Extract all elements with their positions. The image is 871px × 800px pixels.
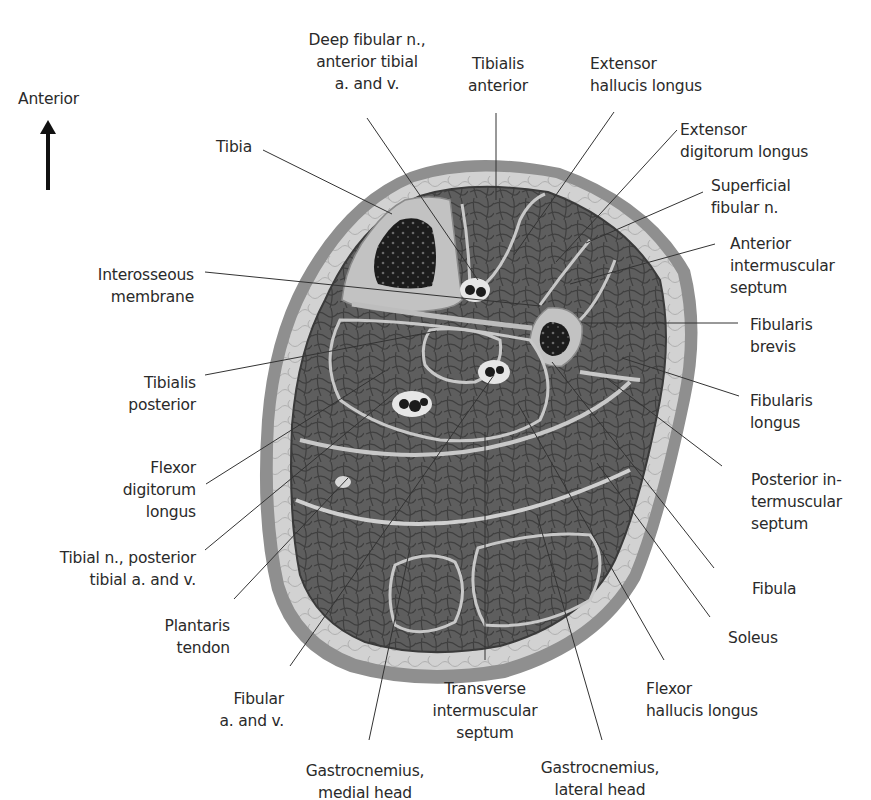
arrow-up-icon xyxy=(36,120,60,192)
leg-cross-section-figure: Anterior Deep fibular n., anterior tibia… xyxy=(0,0,871,800)
label-tibialis-anterior: Tibialis anterior xyxy=(460,53,536,97)
label-deep-fibular-nerve: Deep fibular n., anterior tibial a. and … xyxy=(267,29,467,95)
label-fibular-artery-vein: Fibular a. and v. xyxy=(180,688,284,732)
label-extensor-digitorum-longus: Extensor digitorum longus xyxy=(680,119,808,163)
label-fibula: Fibula xyxy=(752,578,796,600)
label-gastrocnemius-medial-head: Gastrocnemius, medial head xyxy=(294,760,436,800)
label-interosseous-membrane: Interosseous membrane xyxy=(60,264,194,308)
label-tibia: Tibia xyxy=(180,136,252,158)
label-transverse-intermuscular-septum: Transverse intermuscular septum xyxy=(420,678,550,744)
label-fibularis-brevis: Fibularis brevis xyxy=(750,314,813,358)
gastrocnemius-medial-head xyxy=(390,556,463,632)
label-superficial-fibular-nerve: Superficial fibular n. xyxy=(711,175,791,219)
label-soleus: Soleus xyxy=(728,627,778,649)
label-tibialis-posterior: Tibialis posterior xyxy=(80,372,196,416)
label-fibularis-longus: Fibularis longus xyxy=(750,390,813,434)
label-posterior-intermuscular-septum: Posterior in- termuscular septum xyxy=(751,469,842,535)
label-plantaris-tendon: Plantaris tendon xyxy=(120,615,230,659)
label-flexor-hallucis-longus: Flexor hallucis longus xyxy=(646,678,758,722)
label-flexor-digitorum-longus: Flexor digitorum longus xyxy=(80,457,196,523)
label-tibial-nerve-posterior-tibial-vessels: Tibial n., posterior tibial a. and v. xyxy=(20,547,196,591)
orientation-label: Anterior xyxy=(18,88,79,110)
label-extensor-hallucis-longus: Extensor hallucis longus xyxy=(590,53,702,97)
plantaris-tendon-shape xyxy=(335,476,351,488)
label-gastrocnemius-lateral-head: Gastrocnemius, lateral head xyxy=(530,757,670,800)
label-anterior-intermuscular-septum: Anterior intermuscular septum xyxy=(730,233,835,299)
